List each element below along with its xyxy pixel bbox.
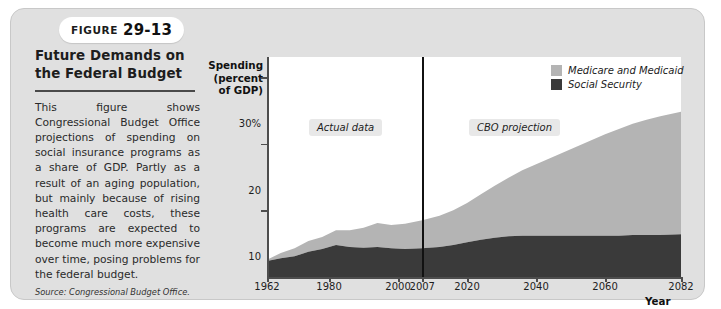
y-axis-line [267, 57, 269, 277]
y-tick-30 [261, 77, 267, 79]
x-tick-label-2082: 2082 [668, 281, 693, 292]
projection-divider-line [422, 57, 424, 277]
figure-badge-word: Figure [71, 24, 118, 36]
legend-item-medicare: Medicare and Medicaid [551, 65, 684, 76]
y-tick-20 [261, 144, 267, 146]
legend-label-social-security: Social Security [568, 79, 642, 90]
y-axis-tick-labels: 102030% [209, 57, 261, 287]
x-axis-tick-labels: 19621980200020072020204020602082 [267, 281, 697, 297]
legend-label-medicare: Medicare and Medicaid [568, 65, 684, 76]
legend-swatch-medicare [551, 65, 562, 76]
figure-title: Future Demands on the Federal Budget [35, 47, 200, 83]
x-tick-label-2020: 2020 [454, 281, 479, 292]
caption-column: Future Demands on the Federal Budget Thi… [35, 47, 200, 297]
figure-badge-number: 29-13 [123, 21, 172, 39]
y-tick-label-10: 10 [248, 251, 261, 262]
figure-description: This figure shows Congressional Budget O… [35, 100, 200, 282]
y-tick-label-20: 20 [248, 185, 261, 196]
x-tick-label-2060: 2060 [592, 281, 617, 292]
x-tick-label-2007: 2007 [410, 281, 435, 292]
x-tick-label-2040: 2040 [523, 281, 548, 292]
title-divider-rule [35, 90, 195, 92]
figure-source: Source: Congressional Budget Office. [35, 287, 200, 297]
annotation-actual-data: Actual data [309, 119, 382, 136]
x-tick-label-1962: 1962 [254, 281, 279, 292]
x-axis-title: Year [645, 295, 671, 307]
y-tick-label-30: 30% [239, 118, 261, 129]
x-tick-label-1980: 1980 [316, 281, 341, 292]
x-tick-label-2000: 2000 [385, 281, 410, 292]
y-tick-10 [261, 210, 267, 212]
figure-number-badge: Figure 29-13 [59, 17, 184, 43]
legend-swatch-social-security [551, 79, 562, 90]
annotation-cbo-projection: CBO projection [469, 119, 560, 136]
legend-item-social-security: Social Security [551, 79, 684, 90]
figure-card: Figure 29-13 Future Demands on the Feder… [10, 8, 705, 300]
chart-legend: Medicare and Medicaid Social Security [551, 65, 684, 93]
